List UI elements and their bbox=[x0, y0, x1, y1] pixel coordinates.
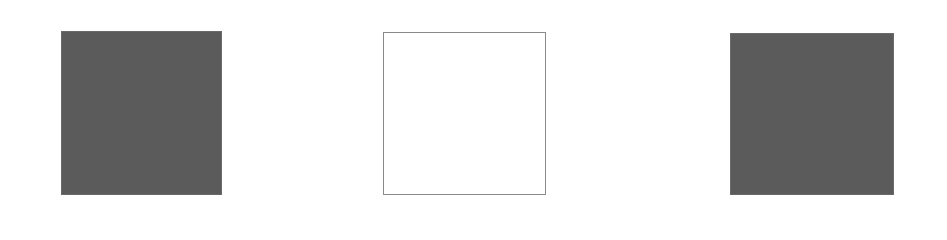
middle-outline-square bbox=[383, 32, 546, 195]
right-filled-square bbox=[730, 33, 894, 195]
left-filled-square bbox=[61, 31, 222, 195]
